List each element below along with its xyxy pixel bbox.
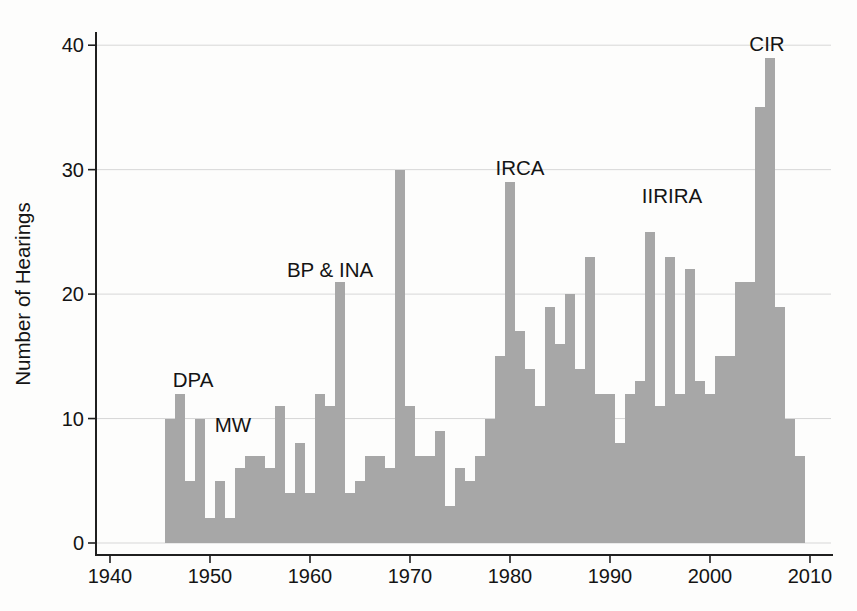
bar-1963 <box>335 282 345 543</box>
bar-1993 <box>635 381 645 543</box>
bar-1966 <box>365 456 375 543</box>
x-tick-label-1970: 1970 <box>388 565 433 587</box>
x-axis-ticks: 19401950196019701980199020002010 <box>88 555 833 587</box>
bar-1997 <box>675 394 685 543</box>
bar-1948 <box>185 481 195 543</box>
bar-1998 <box>685 269 695 543</box>
bar-1957 <box>275 406 285 543</box>
bar-1984 <box>545 307 555 543</box>
bar-2005 <box>755 107 765 543</box>
y-axis-ticks: 010203040 <box>62 34 96 554</box>
annotation-bp-ina: BP & INA <box>287 258 374 281</box>
bar-1971 <box>415 456 425 543</box>
y-axis-title: Number of Hearings <box>11 202 34 385</box>
bar-1959 <box>295 443 305 543</box>
bar-1980 <box>505 182 515 543</box>
x-tick-label-1940: 1940 <box>88 565 133 587</box>
bar-1982 <box>525 369 535 543</box>
bar-1989 <box>595 394 605 543</box>
bar-1965 <box>355 481 365 543</box>
bar-1967 <box>375 456 385 543</box>
bar-1990 <box>605 394 615 543</box>
y-tick-label-20: 20 <box>62 283 84 305</box>
bar-1949 <box>195 419 205 543</box>
x-tick-label-1990: 1990 <box>588 565 633 587</box>
y-tick-label-40: 40 <box>62 34 84 56</box>
bar-1955 <box>255 456 265 543</box>
bar-2007 <box>775 307 785 543</box>
bar-1960 <box>305 493 315 543</box>
bar-1991 <box>615 443 625 543</box>
y-tick-label-30: 30 <box>62 159 84 181</box>
annotation-cir: CIR <box>749 32 784 55</box>
annotation-irca: IRCA <box>496 156 545 179</box>
bar-2001 <box>715 356 725 543</box>
bar-1964 <box>345 493 355 543</box>
bar-1996 <box>665 257 675 543</box>
y-tick-label-0: 0 <box>73 532 84 554</box>
x-tick-label-2000: 2000 <box>688 565 733 587</box>
hearings-bar-chart: 19401950196019701980199020002010 0102030… <box>0 0 857 611</box>
bar-2009 <box>795 456 805 543</box>
y-tick-label-10: 10 <box>62 408 84 430</box>
bar-1985 <box>555 344 565 543</box>
bar-1975 <box>455 468 465 543</box>
bar-2002 <box>725 356 735 543</box>
x-tick-label-1960: 1960 <box>288 565 333 587</box>
bar-1978 <box>485 419 495 543</box>
bar-1976 <box>465 481 475 543</box>
bar-1950 <box>205 518 215 543</box>
bar-2004 <box>745 282 755 543</box>
bar-1973 <box>435 431 445 543</box>
bar-1947 <box>175 394 185 543</box>
bar-1968 <box>385 468 395 543</box>
bar-1962 <box>325 406 335 543</box>
annotation-iirira: IIRIRA <box>642 184 703 207</box>
bar-1977 <box>475 456 485 543</box>
bar-1994 <box>645 232 655 543</box>
annotation-mw: MW <box>215 413 252 436</box>
bar-1970 <box>405 406 415 543</box>
bar-1946 <box>165 419 175 543</box>
annotation-dpa: DPA <box>173 368 214 391</box>
bar-1972 <box>425 456 435 543</box>
bar-2006 <box>765 58 775 543</box>
bar-1961 <box>315 394 325 543</box>
x-tick-label-2010: 2010 <box>788 565 833 587</box>
scanned-figure-page: 19401950196019701980199020002010 0102030… <box>0 0 857 611</box>
bar-1995 <box>655 406 665 543</box>
bars <box>165 58 805 543</box>
bar-1958 <box>285 493 295 543</box>
bar-1987 <box>575 369 585 543</box>
bar-1953 <box>235 468 245 543</box>
bar-1954 <box>245 456 255 543</box>
bar-1999 <box>695 381 705 543</box>
bar-1981 <box>515 331 525 543</box>
x-tick-label-1950: 1950 <box>188 565 233 587</box>
bar-1979 <box>495 356 505 543</box>
bar-1988 <box>585 257 595 543</box>
bar-2008 <box>785 419 795 543</box>
x-tick-label-1980: 1980 <box>488 565 533 587</box>
bar-1992 <box>625 394 635 543</box>
bar-1952 <box>225 518 235 543</box>
bar-2000 <box>705 394 715 543</box>
bar-1956 <box>265 468 275 543</box>
bar-1983 <box>535 406 545 543</box>
bar-2003 <box>735 282 745 543</box>
bar-1951 <box>215 481 225 543</box>
bar-1974 <box>445 506 455 543</box>
bar-1986 <box>565 294 575 543</box>
bar-1969 <box>395 170 405 543</box>
